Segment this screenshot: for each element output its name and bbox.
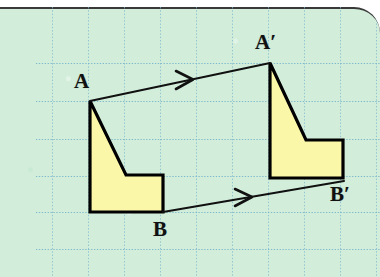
label-a: A [74,71,89,92]
label-b-prime: B′ [330,184,350,205]
image-polygon [270,63,343,178]
preimage-polygon [90,101,163,212]
label-b: B [153,219,167,240]
label-a-prime: A′ [255,32,276,53]
figure-canvas: A A′ B B′ [0,0,380,277]
translation-vector-a [90,63,270,101]
translation-vector-b [163,181,344,212]
geometry-diagram [0,0,380,277]
